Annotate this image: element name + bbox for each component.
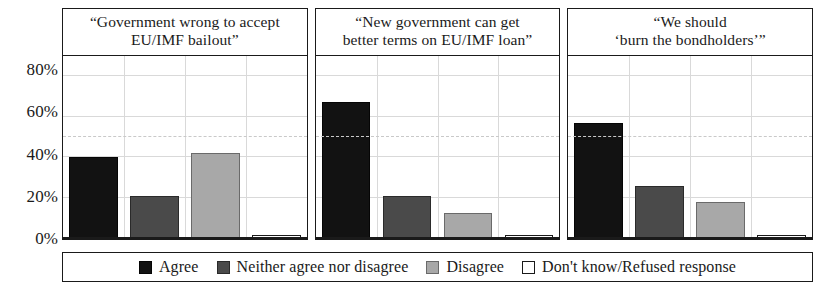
x-axis-baseline bbox=[568, 237, 812, 239]
bar bbox=[69, 157, 118, 239]
panel-title-line: ‘burn the bondholders’” bbox=[572, 31, 808, 49]
bar-chart-figure: 80% 60% 40% 20% 0% “Government wrong to … bbox=[0, 0, 817, 297]
panel-title-line: EU/IMF bailout” bbox=[67, 31, 303, 49]
y-axis-tick-label: 80% bbox=[27, 61, 58, 78]
bar-group bbox=[568, 56, 812, 239]
bar bbox=[444, 213, 493, 239]
legend-item-disagree: Disagree bbox=[426, 259, 504, 275]
y-axis-tick-label: 60% bbox=[27, 103, 58, 120]
bar bbox=[574, 123, 623, 239]
plot-area bbox=[316, 56, 560, 239]
x-axis-baseline bbox=[63, 237, 307, 239]
bar bbox=[635, 186, 684, 239]
x-axis-baseline bbox=[316, 237, 560, 239]
chart-panels: “Government wrong to accept EU/IMF bailo… bbox=[62, 8, 813, 240]
bar-group bbox=[63, 56, 307, 239]
legend-label: Neither agree nor disagree bbox=[237, 259, 409, 275]
reference-line-50 bbox=[316, 136, 560, 137]
y-axis-tick-labels: 80% 60% 40% 20% 0% bbox=[0, 0, 62, 248]
bar bbox=[191, 153, 240, 239]
legend-swatch-icon bbox=[426, 261, 439, 274]
chart-legend: Agree Neither agree nor disagree Disagre… bbox=[62, 252, 813, 282]
bar bbox=[130, 196, 179, 239]
legend-swatch-icon bbox=[139, 261, 152, 274]
chart-panel-burn-bondholders: “We should ‘burn the bondholders’” bbox=[567, 8, 813, 240]
bar bbox=[322, 102, 371, 239]
legend-label: Disagree bbox=[446, 259, 504, 275]
panel-title: “Government wrong to accept EU/IMF bailo… bbox=[63, 9, 307, 56]
bar bbox=[383, 196, 432, 239]
legend-item-neither: Neither agree nor disagree bbox=[217, 259, 409, 275]
legend-swatch-icon bbox=[217, 261, 230, 274]
panel-title-line: “We should bbox=[572, 13, 808, 31]
bar-group bbox=[316, 56, 560, 239]
panel-title-line: “Government wrong to accept bbox=[67, 13, 303, 31]
panel-title-line: “New government can get bbox=[320, 13, 556, 31]
reference-line-50 bbox=[568, 136, 812, 137]
legend-swatch-icon bbox=[522, 261, 535, 274]
legend-label: Don't know/Refused response bbox=[542, 259, 736, 275]
y-axis-tick-label: 20% bbox=[27, 187, 58, 204]
chart-panel-better-terms: “New government can get better terms on … bbox=[315, 8, 561, 240]
panel-title: “New government can get better terms on … bbox=[316, 9, 560, 56]
legend-item-agree: Agree bbox=[139, 259, 199, 275]
panel-title: “We should ‘burn the bondholders’” bbox=[568, 9, 812, 56]
y-axis-tick-label: 0% bbox=[35, 230, 58, 247]
chart-panel-bailout: “Government wrong to accept EU/IMF bailo… bbox=[62, 8, 308, 240]
legend-label: Agree bbox=[159, 259, 199, 275]
plot-area bbox=[63, 56, 307, 239]
plot-area bbox=[568, 56, 812, 239]
legend-item-dont-know: Don't know/Refused response bbox=[522, 259, 736, 275]
panel-title-line: better terms on EU/IMF loan” bbox=[320, 31, 556, 49]
reference-line-50 bbox=[63, 136, 307, 137]
y-axis-tick-label: 40% bbox=[27, 145, 58, 162]
bar bbox=[696, 202, 745, 239]
